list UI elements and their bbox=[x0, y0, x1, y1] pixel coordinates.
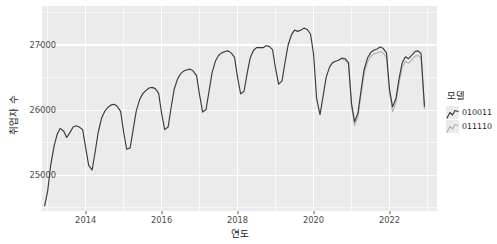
plot-panel bbox=[42, 6, 437, 211]
x-tick-label: 2020 bbox=[303, 215, 324, 225]
y-tick-label: 26000 bbox=[30, 105, 56, 115]
series-line-010011 bbox=[45, 28, 425, 206]
x-tick-label: 2018 bbox=[227, 215, 248, 225]
legend-items: 010011011110 bbox=[446, 106, 496, 133]
x-tick-label: 2022 bbox=[379, 215, 400, 225]
y-tick-label: 25000 bbox=[30, 170, 56, 180]
legend-line-icon bbox=[446, 106, 459, 119]
x-tick-label: 2014 bbox=[75, 215, 96, 225]
y-axis-title: 취업자 수 bbox=[6, 79, 20, 151]
legend-title: 모델 bbox=[447, 88, 496, 102]
y-tick-mark bbox=[39, 110, 42, 111]
x-tick-mark bbox=[161, 211, 162, 214]
x-tick-label: 2016 bbox=[151, 215, 172, 225]
x-axis-title: 연도 bbox=[42, 226, 437, 240]
y-tick-label: 27000 bbox=[30, 40, 56, 50]
legend-item-label: 011110 bbox=[462, 122, 492, 131]
series-line-011110 bbox=[342, 52, 424, 126]
legend-item-label: 010011 bbox=[462, 108, 492, 117]
x-tick-mark bbox=[389, 211, 390, 214]
x-tick-mark bbox=[237, 211, 238, 214]
legend-item[interactable]: 010011 bbox=[446, 106, 496, 119]
legend: 모델 010011011110 bbox=[446, 88, 496, 134]
x-tick-mark bbox=[313, 211, 314, 214]
y-tick-mark bbox=[39, 175, 42, 176]
y-tick-mark bbox=[39, 45, 42, 46]
series-lines bbox=[42, 6, 437, 211]
x-tick-mark bbox=[85, 211, 86, 214]
chart-figure: { "axes": { "x_title": "연도", "y_title": … bbox=[0, 0, 497, 244]
legend-item[interactable]: 011110 bbox=[446, 120, 496, 133]
legend-line-icon bbox=[446, 120, 459, 133]
